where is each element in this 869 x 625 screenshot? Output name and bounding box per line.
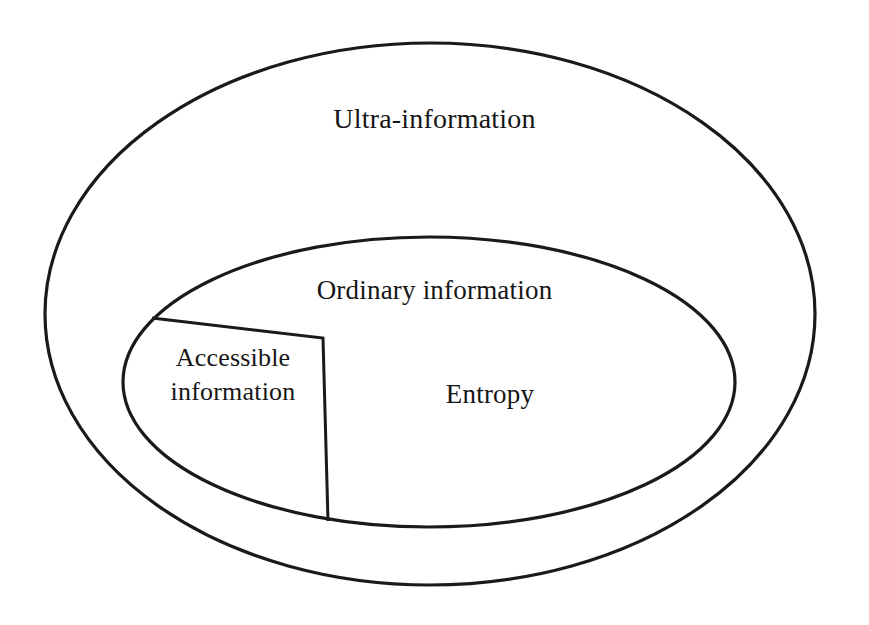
venn-diagram-canvas: [0, 0, 869, 625]
label-ordinary-information: Ordinary information: [0, 274, 869, 307]
label-ultra-information: Ultra-information: [0, 102, 869, 136]
label-accessible-information: Accessible information: [138, 341, 328, 409]
venn-diagram: Ultra-information Ordinary information A…: [0, 0, 869, 625]
label-entropy: Entropy: [380, 378, 600, 411]
